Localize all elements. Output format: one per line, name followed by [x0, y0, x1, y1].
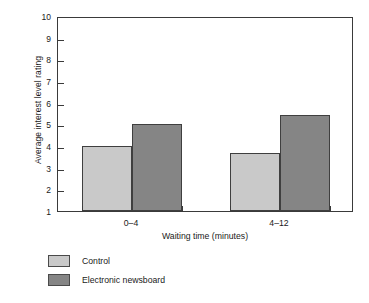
- legend-item: Electronic newsboard: [48, 271, 165, 288]
- plot-area: [57, 17, 353, 212]
- y-axis-tick-label: 5: [31, 121, 51, 130]
- y-axis-tick-label: 2: [31, 186, 51, 195]
- x-axis-tick-label: 4–12: [249, 219, 309, 228]
- y-axis-tick-label: 6: [31, 100, 51, 109]
- bar-control-1: [230, 153, 280, 212]
- bar-electronic-newsboard-0: [132, 124, 182, 211]
- y-axis-tick: [58, 170, 64, 171]
- legend-swatch-newsboard: [48, 274, 70, 286]
- y-axis-tick-label: 1: [31, 208, 51, 217]
- y-axis-tick: [58, 126, 64, 127]
- x-axis-tick-label: 0–4: [101, 219, 161, 228]
- y-axis-tick-label: 9: [31, 35, 51, 44]
- y-axis-tick-label: 10: [31, 13, 51, 22]
- y-axis-tick: [58, 105, 64, 106]
- y-axis-tick-label: 4: [31, 143, 51, 152]
- x-axis-tick: [230, 206, 231, 211]
- chart-legend: ControlElectronic newsboard: [48, 252, 165, 290]
- y-axis-tick-label: 7: [31, 78, 51, 87]
- y-axis-tick-label: 8: [31, 56, 51, 65]
- y-axis-tick: [58, 191, 64, 192]
- legend-swatch-control: [48, 255, 70, 267]
- plot-inner: [58, 18, 352, 211]
- y-axis-tick: [58, 40, 64, 41]
- legend-label: Electronic newsboard: [82, 275, 165, 285]
- x-axis-tick: [182, 206, 183, 211]
- y-axis-tick: [58, 148, 64, 149]
- x-axis-tick: [330, 206, 331, 211]
- x-axis-title: Waiting time (minutes): [57, 231, 353, 241]
- bar-chart-figure: Average interest level rating 1234567891…: [0, 0, 369, 303]
- y-axis-tick: [58, 61, 64, 62]
- bar-electronic-newsboard-1: [280, 115, 330, 211]
- bar-control-0: [82, 146, 132, 211]
- legend-item: Control: [48, 252, 165, 269]
- y-axis-tick-label: 3: [31, 165, 51, 174]
- y-axis-tick: [58, 83, 64, 84]
- legend-label: Control: [82, 256, 110, 266]
- x-axis-tick: [82, 206, 83, 211]
